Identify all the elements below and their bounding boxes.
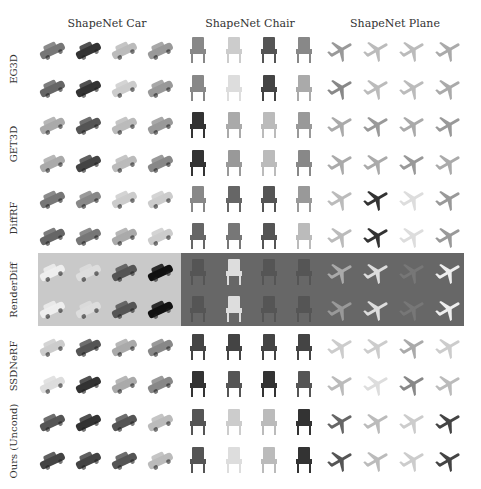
car-sample-image xyxy=(107,443,141,477)
car-sample-image xyxy=(107,146,141,180)
car-sample-image xyxy=(35,182,69,216)
car-sample-image xyxy=(107,182,141,216)
chair-sample-image xyxy=(181,367,215,401)
car-sample-image xyxy=(35,330,69,364)
chair-sample-image xyxy=(287,405,321,439)
plane-sample-image xyxy=(360,405,394,439)
chair-sample-image xyxy=(252,146,286,180)
chair-sample-image xyxy=(181,330,215,364)
plane-sample-image xyxy=(360,33,394,67)
car-sample-image xyxy=(35,443,69,477)
plane-sample-image xyxy=(360,292,394,326)
car-sample-image xyxy=(35,255,69,289)
plane-sample-image xyxy=(324,182,358,216)
plane-sample-image xyxy=(432,146,466,180)
chair-sample-image xyxy=(217,292,251,326)
car-sample-image xyxy=(71,367,105,401)
plane-sample-image xyxy=(324,292,358,326)
chair-sample-image xyxy=(217,146,251,180)
plane-sample-image xyxy=(324,108,358,142)
plane-sample-image xyxy=(360,146,394,180)
plane-sample-image xyxy=(324,367,358,401)
chair-sample-image xyxy=(287,182,321,216)
chair-sample-image xyxy=(287,71,321,105)
car-sample-image xyxy=(71,108,105,142)
car-sample-image xyxy=(107,33,141,67)
car-sample-image xyxy=(143,71,177,105)
chair-sample-image xyxy=(252,71,286,105)
chair-sample-image xyxy=(217,405,251,439)
car-sample-image xyxy=(71,33,105,67)
car-sample-image xyxy=(107,330,141,364)
plane-sample-image xyxy=(432,108,466,142)
plane-sample-image xyxy=(396,330,430,364)
plane-sample-image xyxy=(324,33,358,67)
car-sample-image xyxy=(143,405,177,439)
plane-sample-image xyxy=(360,330,394,364)
car-sample-image xyxy=(71,255,105,289)
chair-sample-image xyxy=(287,219,321,253)
chair-sample-image xyxy=(181,255,215,289)
plane-sample-image xyxy=(324,330,358,364)
car-sample-image xyxy=(35,367,69,401)
car-sample-image xyxy=(143,367,177,401)
plane-sample-image xyxy=(432,33,466,67)
chair-sample-image xyxy=(287,292,321,326)
plane-sample-image xyxy=(324,146,358,180)
chair-sample-image xyxy=(181,292,215,326)
plane-sample-image xyxy=(432,219,466,253)
plane-sample-image xyxy=(360,219,394,253)
plane-sample-image xyxy=(396,219,430,253)
chair-sample-image xyxy=(217,330,251,364)
plane-sample-image xyxy=(360,443,394,477)
car-sample-image xyxy=(35,292,69,326)
car-sample-image xyxy=(143,330,177,364)
chair-sample-image xyxy=(287,443,321,477)
plane-sample-image xyxy=(432,330,466,364)
chair-sample-image xyxy=(217,367,251,401)
chair-sample-image xyxy=(252,108,286,142)
plane-sample-image xyxy=(396,33,430,67)
plane-sample-image xyxy=(360,71,394,105)
car-sample-image xyxy=(107,405,141,439)
chair-sample-image xyxy=(181,219,215,253)
plane-sample-image xyxy=(396,71,430,105)
car-sample-image xyxy=(143,182,177,216)
plane-sample-image xyxy=(396,405,430,439)
car-sample-image xyxy=(35,146,69,180)
plane-sample-image xyxy=(432,182,466,216)
chair-sample-image xyxy=(252,292,286,326)
car-sample-image xyxy=(71,405,105,439)
car-sample-image xyxy=(143,292,177,326)
car-sample-image xyxy=(71,146,105,180)
plane-sample-image xyxy=(432,71,466,105)
plane-sample-image xyxy=(432,405,466,439)
car-sample-image xyxy=(143,108,177,142)
chair-sample-image xyxy=(252,255,286,289)
chair-sample-image xyxy=(252,367,286,401)
chair-sample-image xyxy=(287,367,321,401)
chair-sample-image xyxy=(181,182,215,216)
chair-sample-image xyxy=(252,182,286,216)
chair-sample-image xyxy=(287,108,321,142)
plane-sample-image xyxy=(324,255,358,289)
plane-sample-image xyxy=(396,292,430,326)
chair-sample-image xyxy=(217,255,251,289)
plane-sample-image xyxy=(324,405,358,439)
chair-sample-image xyxy=(181,108,215,142)
plane-sample-image xyxy=(396,443,430,477)
chair-sample-image xyxy=(181,146,215,180)
plane-sample-image xyxy=(432,255,466,289)
chair-sample-image xyxy=(252,443,286,477)
car-sample-image xyxy=(107,71,141,105)
plane-sample-image xyxy=(360,182,394,216)
chair-sample-image xyxy=(217,219,251,253)
plane-sample-image xyxy=(360,108,394,142)
chair-sample-image xyxy=(252,330,286,364)
car-sample-image xyxy=(143,146,177,180)
car-sample-image xyxy=(35,33,69,67)
car-sample-image xyxy=(71,330,105,364)
car-sample-image xyxy=(71,443,105,477)
plane-sample-image xyxy=(396,255,430,289)
plane-sample-image xyxy=(432,443,466,477)
